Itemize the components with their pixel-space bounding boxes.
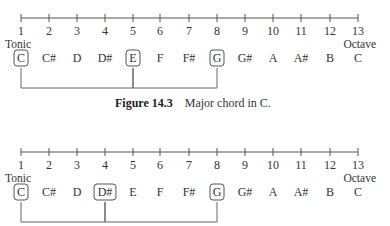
note-label: F# bbox=[183, 185, 196, 199]
semitone-number: 12 bbox=[324, 24, 336, 38]
note-label: D# bbox=[98, 51, 113, 65]
figure-2: 1C2C#3D4D#5E6F7F#8G9G#10A11A#12B13CTonic… bbox=[5, 148, 376, 226]
semitone-number: 8 bbox=[214, 158, 220, 172]
note-label: B bbox=[326, 51, 334, 65]
semitone-number: 6 bbox=[157, 158, 163, 172]
semitone-number: 7 bbox=[186, 158, 192, 172]
semitone-number: 1 bbox=[18, 158, 24, 172]
semitone-number: 4 bbox=[102, 24, 108, 38]
note-label: E bbox=[129, 51, 136, 65]
note-label: G# bbox=[238, 51, 253, 65]
octave-label: Octave bbox=[343, 172, 376, 184]
note-label: E bbox=[129, 185, 136, 199]
semitone-number: 11 bbox=[295, 24, 307, 38]
note-label: A# bbox=[294, 51, 309, 65]
semitone-number: 13 bbox=[352, 158, 364, 172]
figure-1: 1C2C#3D4D#5E6F7F#8G9G#10A11A#12B13CTonic… bbox=[5, 14, 376, 110]
semitone-number: 1 bbox=[18, 24, 24, 38]
semitone-number: 10 bbox=[267, 24, 279, 38]
octave-label: Octave bbox=[343, 38, 376, 50]
chord-diagrams: 1C2C#3D4D#5E6F7F#8G9G#10A11A#12B13CTonic… bbox=[0, 0, 390, 226]
note-label: F# bbox=[183, 51, 196, 65]
semitone-number: 11 bbox=[295, 158, 307, 172]
note-label: G bbox=[213, 185, 222, 199]
tonic-label: Tonic bbox=[5, 172, 31, 184]
semitone-number: 13 bbox=[352, 24, 364, 38]
semitone-number: 3 bbox=[74, 24, 80, 38]
note-label: C bbox=[17, 51, 25, 65]
note-label: F bbox=[157, 185, 164, 199]
tonic-label: Tonic bbox=[5, 38, 31, 50]
note-label: A# bbox=[294, 185, 309, 199]
note-label: F bbox=[157, 51, 164, 65]
semitone-number: 9 bbox=[242, 24, 248, 38]
semitone-number: 7 bbox=[186, 24, 192, 38]
semitone-number: 10 bbox=[267, 158, 279, 172]
semitone-number: 4 bbox=[102, 158, 108, 172]
note-label: C bbox=[17, 185, 25, 199]
semitone-number: 3 bbox=[74, 158, 80, 172]
note-label: G bbox=[213, 51, 222, 65]
semitone-number: 8 bbox=[214, 24, 220, 38]
semitone-number: 2 bbox=[46, 24, 52, 38]
semitone-number: 5 bbox=[130, 158, 136, 172]
note-label: D bbox=[73, 51, 82, 65]
note-label: G# bbox=[238, 185, 253, 199]
semitone-number: 9 bbox=[242, 158, 248, 172]
note-label: C# bbox=[42, 185, 56, 199]
note-label: D# bbox=[98, 185, 113, 199]
figure-caption: Figure 14.3Major chord in C. bbox=[115, 96, 271, 110]
semitone-number: 12 bbox=[324, 158, 336, 172]
note-label: A bbox=[269, 51, 278, 65]
semitone-number: 5 bbox=[130, 24, 136, 38]
note-label: C bbox=[354, 185, 362, 199]
semitone-number: 6 bbox=[157, 24, 163, 38]
note-label: D bbox=[73, 185, 82, 199]
semitone-number: 2 bbox=[46, 158, 52, 172]
note-label: C bbox=[354, 51, 362, 65]
note-label: C# bbox=[42, 51, 56, 65]
note-label: A bbox=[269, 185, 278, 199]
note-label: B bbox=[326, 185, 334, 199]
